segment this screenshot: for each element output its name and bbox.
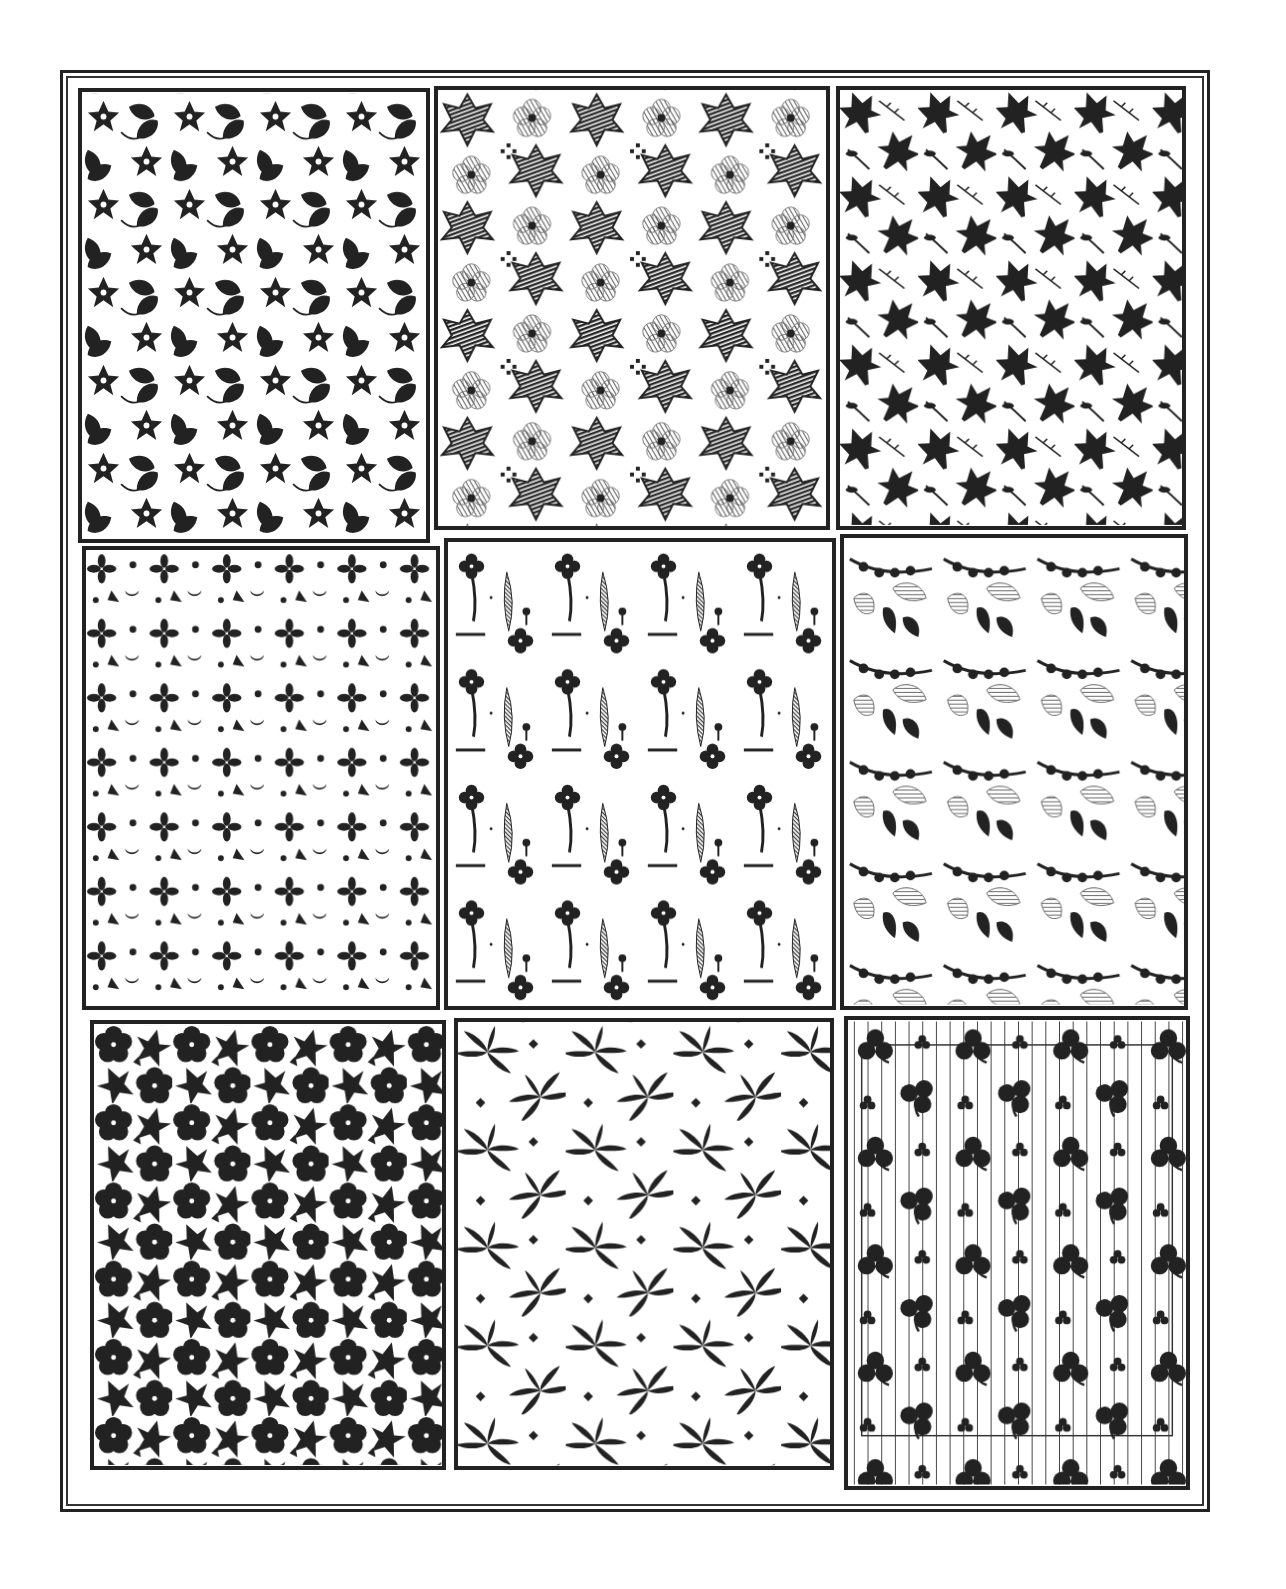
pattern-panel-8 [454,1018,834,1470]
berry-vine-pattern-icon [844,538,1184,1006]
flower-leaf-pattern-icon [82,92,426,539]
clover-stripe-pattern-icon [848,1020,1186,1486]
pattern-panel-9 [844,1016,1190,1490]
pattern-panel-5 [444,538,836,1010]
stem-flower-pattern-icon [448,542,832,1006]
maple-blossom-pattern-icon [438,90,826,526]
bamboo-leaf-pattern-icon [458,1022,830,1466]
pattern-panel-3 [836,86,1186,530]
pattern-panel-6 [840,534,1188,1010]
maple-sprig-pattern-icon [840,90,1182,526]
pattern-panel-2 [434,86,830,530]
pattern-panel-7 [90,1020,446,1470]
dense-flower-ivy-pattern-icon [94,1024,442,1466]
sprig-dot-crescent-pattern-icon [86,550,436,1006]
pattern-panel-4 [82,546,440,1010]
pattern-panel-1 [78,88,430,543]
